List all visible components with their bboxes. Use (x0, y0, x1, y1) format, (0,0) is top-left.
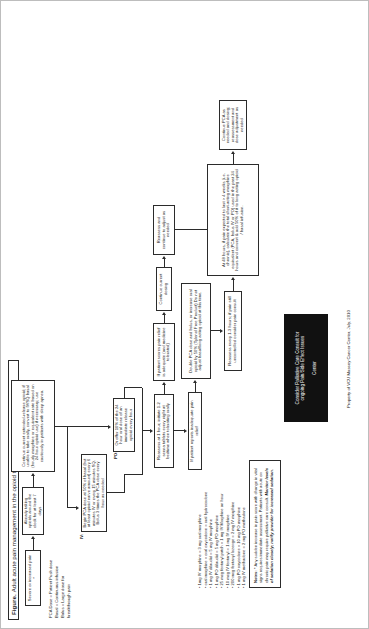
node-reassess-1-3-hours: Reassess every 1-3 hours; if pain still … (224, 291, 242, 371)
figure-sheet: Figure. Adult acute pain management in t… (0, 0, 369, 629)
node-continue-current-er-opioid: Continue current extended-release opioid… (11, 380, 55, 472)
copyright-credit: Property of VCU Massey Cancer Center, Ju… (346, 310, 351, 408)
notes-box: Notes: * Any sudden increase in pain sco… (249, 460, 281, 588)
node-reassess-and-adjust: Reassess and continue to adjust as neede… (153, 205, 175, 255)
node-begin-pca-dose: Begin PCA dose at 50% of basal (but at l… (81, 454, 107, 532)
at-48-hours-text: At 48 hours, if pain expected to last > … (222, 169, 245, 271)
double-pca-text: Double PCA dose and bolus, or increase o… (188, 289, 202, 372)
conversion-item: • 1 mg IV methadone = 2 mg PO methadone (241, 408, 247, 588)
route-label-iv: IV: (79, 534, 84, 539)
route-label-po: PO: (113, 451, 118, 459)
palliative-line-1: Consider Palliative Care Consult for (295, 332, 300, 405)
notes-heading: Notes: (253, 570, 258, 583)
node-severe-pain: Severe or increased pain * (25, 550, 41, 606)
node-already-taking-opioids: Already taking opioids around the clock … (22, 487, 44, 535)
figure-label: Figure. (10, 594, 17, 615)
figure-canvas: Figure. Adult acute pain management in t… (1, 1, 368, 628)
node-or-offer-oral-dose: Or offer 10% of the 24 hour oral dose of… (113, 398, 135, 452)
node-at-48-hours: At 48 hours, if pain expected to last > … (207, 164, 259, 276)
opioid-conversion-list: • 1mg IV morphine = 3 mg oral morphine •… (197, 408, 247, 588)
legend-key: PCA Dose = Patient Push dose Basal = Con… (48, 526, 72, 618)
node-continue-prn-dosing: Continue PCA as needed and dosing; reass… (219, 100, 247, 150)
node-double-pca-dose: Double PCA dose and bolus, or increase o… (181, 283, 211, 379)
palliative-line-2: ongoing Pain/Side Effect Issues (300, 336, 305, 401)
node-reassess-1-hour-senna: Reassess at 1 hour; initiate 1-2 senna t… (154, 394, 174, 468)
legend-line-4: breakthrough pain (66, 526, 72, 618)
palliative-line-3: Center (312, 361, 317, 375)
figure-page: Figure. Adult acute pain management in t… (0, 0, 369, 629)
node-adequate-pain-relief: If patient scores pain relief is adequat… (153, 323, 175, 381)
node-continue-current-dosing: Continue current dosing (156, 267, 172, 311)
palliative-care-banner: Consider Palliative Care Consult for ong… (284, 314, 328, 422)
